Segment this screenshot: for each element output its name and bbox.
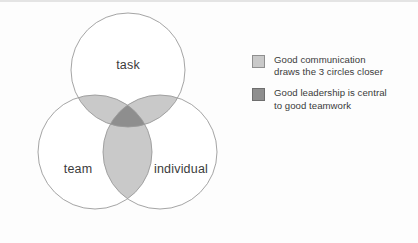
legend-swatch-light-icon <box>252 55 265 68</box>
legend-swatch-dark-icon <box>252 88 265 101</box>
circle-label-team: team <box>64 162 93 176</box>
legend-label-leadership-line2: to good teamwork <box>274 100 387 112</box>
legend: Good communication draws the 3 circles c… <box>252 54 416 121</box>
circle-label-individual: individual <box>154 162 208 176</box>
legend-label-communication-line2: draws the 3 circles closer <box>274 66 383 78</box>
legend-label-leadership: Good leadership is central to good teamw… <box>274 87 387 111</box>
legend-item-leadership: Good leadership is central to good teamw… <box>252 87 416 111</box>
legend-label-leadership-line1: Good leadership is central <box>274 87 387 99</box>
figure-root: task team individual Good communication … <box>0 0 418 243</box>
legend-item-communication: Good communication draws the 3 circles c… <box>252 54 416 78</box>
venn-diagram: task team individual <box>0 0 418 243</box>
legend-label-communication-line1: Good communication <box>274 54 383 66</box>
circle-label-task: task <box>116 58 140 72</box>
legend-label-communication: Good communication draws the 3 circles c… <box>274 54 383 78</box>
